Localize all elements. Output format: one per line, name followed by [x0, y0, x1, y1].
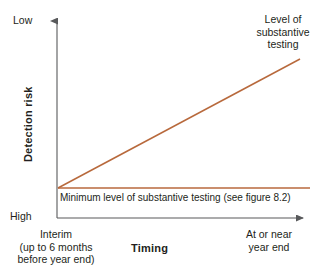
substantive-testing-line	[58, 59, 300, 188]
annotation-minimum-level-of-substantive-testing: Minimum level of substantive testing (se…	[60, 192, 291, 205]
detection-risk-timing-chart: Low High Detection risk Timing Interim (…	[0, 0, 320, 276]
x-axis-title: Timing	[131, 242, 168, 255]
y-axis-high-label: High	[10, 210, 32, 223]
x-axis-tick-label-year-end: At or near year end	[222, 228, 316, 253]
y-axis-low-label: Low	[13, 14, 32, 27]
annotation-level-of-substantive-testing: Level of substantive testing	[248, 13, 318, 51]
x-axis-tick-label-interim: Interim (up to 6 months before year end)	[2, 228, 110, 266]
y-axis-title: Detection risk	[22, 74, 35, 174]
